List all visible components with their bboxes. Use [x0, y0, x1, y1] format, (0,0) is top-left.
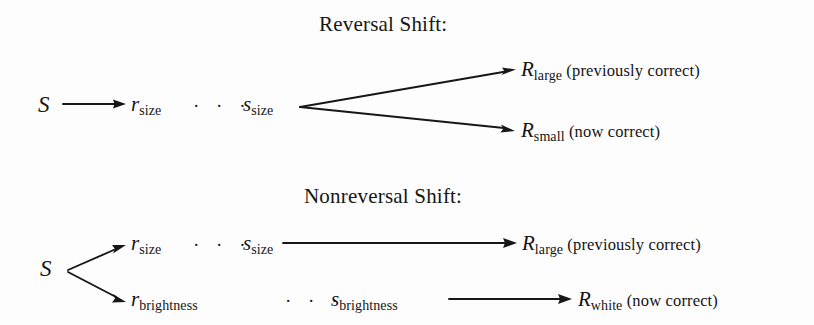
mediator-chain-brightness-r: rbrightness	[131, 287, 198, 314]
mediator-s-base: s	[243, 231, 251, 255]
mediator-r-subscript: size	[139, 242, 161, 257]
mediator-r-base: r	[131, 92, 139, 116]
mediator-s-base: s	[331, 287, 339, 311]
arrow-fork-to-rlarge	[300, 68, 516, 108]
response-node-r-large-reversal: Rlarge (previously correct)	[521, 57, 700, 84]
mediator-r-subscript: brightness	[139, 298, 198, 313]
mediator-r-base: r	[131, 287, 139, 311]
figure-canvas: Reversal Shift: S rsize · · · ssize Rlar…	[0, 0, 814, 325]
response-note-now-correct: (now correct)	[569, 122, 660, 141]
stimulus-node-reversal: S	[38, 92, 50, 118]
response-note-previously-correct: (previously correct)	[566, 61, 700, 80]
stimulus-node-nonreversal: S	[40, 256, 52, 282]
response-node-r-small-reversal: Rsmall (now correct)	[521, 118, 660, 145]
response-note-previously-correct: (previously correct)	[567, 235, 701, 254]
section-title-reversal: Reversal Shift:	[319, 12, 447, 37]
response-r-base: R	[578, 287, 591, 311]
response-node-r-large-nonreversal: Rlarge (previously correct)	[522, 231, 701, 258]
arrow-s-to-rsize-bottom	[68, 245, 126, 270]
mediator-chain-s-size-reversal: ssize	[243, 92, 273, 119]
response-r-subscript: large	[535, 242, 563, 257]
mediator-chain-brightness-s: sbrightness	[331, 287, 398, 314]
mediator-chain-size-nonreversal: rsize	[131, 231, 161, 258]
mediator-s-subscript: size	[251, 242, 273, 257]
section-title-nonreversal: Nonreversal Shift:	[304, 184, 462, 209]
mediator-r-subscript: size	[139, 103, 161, 118]
response-r-base: R	[521, 57, 534, 81]
mediator-r-base: r	[131, 231, 139, 255]
response-note-now-correct: (now correct)	[627, 291, 718, 310]
mediator-s-base: s	[243, 92, 251, 116]
arrow-s-to-rbrightness	[68, 272, 126, 303]
response-node-r-white-nonreversal: Rwhite (now correct)	[578, 287, 718, 314]
arrow-fork-to-rsmall	[300, 107, 515, 133]
arrow-s-to-rsize-top	[63, 100, 126, 109]
response-r-subscript: white	[591, 298, 623, 313]
response-r-base: R	[522, 231, 535, 255]
response-r-subscript: small	[534, 129, 565, 144]
mediator-chain-s-size-nonreversal: ssize	[243, 231, 273, 258]
mediator-s-subscript: size	[251, 103, 273, 118]
mediator-s-subscript: brightness	[339, 298, 398, 313]
mediator-chain-size-reversal: rsize	[131, 92, 161, 119]
response-r-base: R	[521, 118, 534, 142]
arrow-sbrightness-to-rwhite	[449, 294, 572, 304]
response-r-subscript: large	[534, 68, 562, 83]
arrow-layer	[0, 0, 814, 325]
arrow-ssize-to-rlarge	[283, 238, 517, 248]
